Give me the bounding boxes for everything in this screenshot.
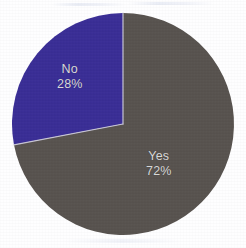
pie-label-yes-name: Yes bbox=[146, 149, 172, 164]
pie-chart-canvas bbox=[0, 0, 246, 248]
pie-label-no-value: 28% bbox=[57, 77, 83, 92]
pie-label-no-name: No bbox=[57, 62, 83, 77]
pie-label-yes: Yes 72% bbox=[146, 149, 172, 179]
pie-chart-figure: No 28% Yes 72% bbox=[0, 0, 246, 248]
pie-label-no: No 28% bbox=[57, 62, 83, 92]
pie-label-yes-value: 72% bbox=[146, 164, 172, 179]
pie-slices bbox=[12, 13, 234, 235]
